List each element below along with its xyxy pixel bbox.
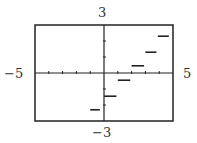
graph-window xyxy=(0,0,197,143)
coordinate-axes xyxy=(35,25,173,121)
